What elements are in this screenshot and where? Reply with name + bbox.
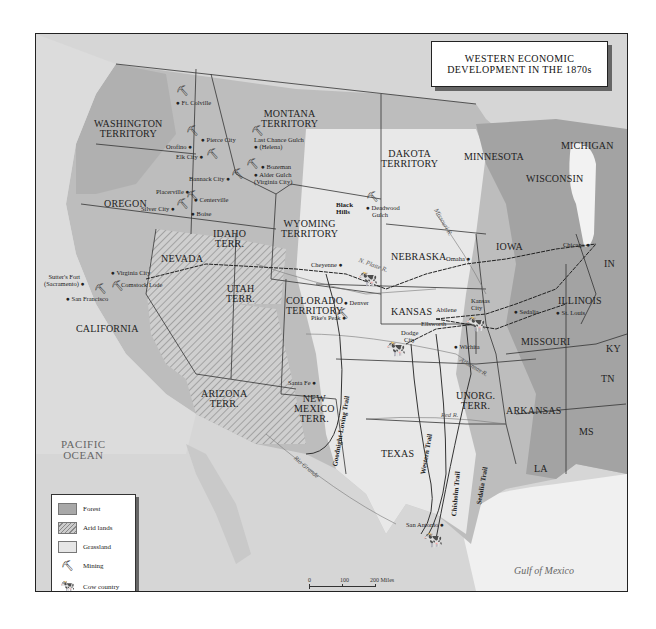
- label-montana: MONTANATERRITORY: [261, 109, 318, 129]
- label-tennessee: TN: [601, 374, 615, 384]
- cow-icon: 🐄: [466, 316, 486, 332]
- scale-bar: 0 100 200 Miles 0 100 200 Kilometers: [308, 577, 418, 592]
- label-kentucky: KY: [606, 344, 621, 354]
- mining-pick-icon: ⛏: [231, 169, 244, 179]
- title-line-1: WESTERN ECONOMIC: [465, 53, 574, 65]
- city-cheyenne: Cheyenne ●: [311, 262, 343, 269]
- city-pierce-city: ● Pierce City: [201, 137, 236, 144]
- mining-pick-icon: ⛏: [336, 309, 349, 319]
- grassland-swatch: [58, 541, 77, 553]
- city-comstock-lode: Comstock Lode: [121, 282, 162, 289]
- label-unorganized-territory: UNORG.TERR.: [456, 391, 495, 411]
- city-virginia-city-nv: ● Virginia City: [111, 270, 150, 277]
- label-idaho: IDAHOTERR.: [213, 229, 246, 249]
- city-ellsworth: Ellsworth: [421, 321, 446, 328]
- label-red-river: Red R.: [441, 412, 458, 419]
- city-denver: ● Denver: [344, 300, 369, 307]
- legend-item-mining: ⛏ Mining: [58, 560, 104, 571]
- city-centerville: ● Centerville: [194, 197, 228, 204]
- label-new-mexico: NEWMEXICOTERR.: [294, 394, 335, 424]
- city-last-chance-gulch: Last Chance Gulch● (Helena): [254, 137, 304, 150]
- city-boise: ● Boise: [191, 211, 211, 218]
- label-washington: WASHINGTONTERRITORY: [94, 119, 162, 139]
- city-kansas-city: KansasCity: [471, 298, 490, 311]
- mining-pick-icon: ⛏: [206, 149, 219, 159]
- label-wyoming: WYOMINGTERRITORY: [281, 219, 338, 239]
- label-colorado: COLORADOTERRITORY: [286, 296, 343, 316]
- legend-item-cow-country: 🐄 Cow country: [58, 579, 119, 592]
- map-legend: Forest Arid lands Grassland ⛏ Mining 🐄 C…: [51, 494, 136, 592]
- cow-icon: 🐄: [58, 579, 77, 592]
- city-ft-colville: ● Ft. Colville: [176, 100, 211, 107]
- city-santa-fe: Santa Fe ●: [288, 380, 316, 387]
- city-omaha: Omaha ●: [446, 256, 470, 263]
- label-indiana: IN: [604, 259, 615, 269]
- label-kansas: KANSAS: [391, 307, 432, 317]
- label-california: CALIFORNIA: [76, 324, 139, 334]
- arid-lands-swatch: [58, 522, 77, 534]
- label-mississippi: MS: [579, 427, 594, 437]
- label-minnesota: MINNESOTA: [464, 152, 524, 162]
- forest-swatch: [58, 503, 77, 515]
- city-san-antonio: San Antonio ●: [406, 522, 444, 529]
- label-arizona: ARIZONATERR.: [201, 389, 247, 409]
- city-wichita: ● Wichita: [454, 344, 480, 351]
- cow-icon: 🐄: [386, 341, 406, 357]
- label-wisconsin: WISCONSIN: [526, 174, 583, 184]
- city-abilene: Abilene: [436, 307, 457, 314]
- city-elk-city: Elk City ●: [176, 154, 203, 161]
- map-title: WESTERN ECONOMIC DEVELOPMENT IN THE 1870…: [431, 41, 608, 87]
- city-sutters-fort: Sutter's Fort(Sacramento) ●: [44, 274, 85, 287]
- label-illinois: ILLINOIS: [558, 296, 602, 306]
- mining-pick-icon: ⛏: [251, 126, 264, 136]
- label-louisiana: LA: [534, 464, 548, 474]
- title-line-2: DEVELOPMENT IN THE 1870s: [447, 64, 592, 76]
- city-alder-gulch: ● Alder Gulch(Virginia City): [254, 172, 292, 185]
- legend-item-grassland: Grassland: [58, 541, 111, 553]
- city-san-francisco: ● San Francisco: [66, 296, 108, 303]
- city-st-louis: ● St. Louis: [556, 310, 585, 317]
- label-utah: UTAHTERR.: [226, 284, 255, 304]
- mining-pick-icon: ⛏: [94, 284, 107, 294]
- city-sedalia: ● Sedalia: [514, 309, 539, 316]
- label-nevada: NEVADA: [161, 254, 203, 264]
- legend-item-arid-lands: Arid lands: [58, 522, 112, 534]
- label-nebraska: NEBRASKA: [391, 252, 447, 262]
- map-frame: WESTERN ECONOMIC DEVELOPMENT IN THE 1870…: [35, 33, 628, 592]
- label-black-hills: BlackHills: [336, 202, 353, 216]
- label-texas: TEXAS: [381, 449, 414, 459]
- label-dakota: DAKOTATERRITORY: [381, 149, 438, 169]
- label-michigan: MICHIGAN: [561, 141, 614, 151]
- cow-icon: 🐄: [423, 532, 443, 548]
- mining-pick-icon: ⛏: [186, 126, 199, 136]
- city-bozeman: ● Bozeman: [261, 164, 291, 171]
- label-missouri: MISSOURI: [521, 337, 570, 347]
- city-orofino: Orofino ●: [166, 144, 192, 151]
- mining-pick-icon: ⛏: [246, 159, 259, 169]
- city-placerville: Placerville ●: [156, 189, 189, 196]
- mining-pick-icon: ⛏: [176, 86, 189, 96]
- label-iowa: IOWA: [496, 242, 523, 252]
- legend-item-forest: Forest: [58, 503, 101, 515]
- mining-pick-icon: ⛏: [58, 560, 77, 571]
- city-deadwood-gulch: ● DeadwoodGulch: [366, 205, 400, 218]
- mining-pick-icon: ⛏: [176, 199, 189, 209]
- label-arkansas: ARKANSAS: [506, 406, 562, 416]
- city-bannack-city: Bannack City ●: [189, 176, 230, 183]
- mining-pick-icon: ⛏: [366, 192, 379, 202]
- city-silver-city: Silver City ●: [141, 206, 175, 213]
- mining-pick-icon: ⛏: [111, 281, 124, 291]
- city-chicago: Chicago ●: [563, 242, 590, 249]
- cow-icon: 🐄: [358, 271, 378, 287]
- label-gulf-of-mexico: Gulf of Mexico: [514, 566, 574, 576]
- label-pacific-ocean: PACIFICOCEAN: [61, 439, 106, 461]
